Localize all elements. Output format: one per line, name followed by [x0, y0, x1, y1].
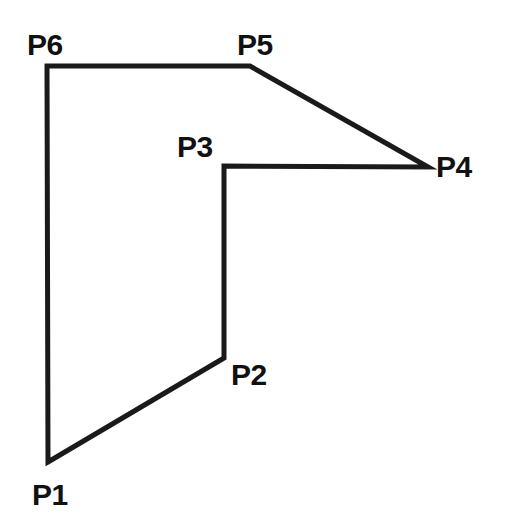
polygon-shape	[0, 0, 505, 518]
vertex-label-p2: P2	[231, 360, 267, 390]
vertex-label-p3: P3	[177, 132, 213, 162]
vertex-label-p4: P4	[436, 152, 472, 182]
vertex-label-p6: P6	[27, 30, 63, 60]
polygon-diagram-canvas: P1 P2 P3 P4 P5 P6	[0, 0, 505, 518]
vertex-label-p1: P1	[32, 480, 68, 510]
polygon-outline	[47, 66, 428, 462]
vertex-label-p5: P5	[237, 30, 273, 60]
